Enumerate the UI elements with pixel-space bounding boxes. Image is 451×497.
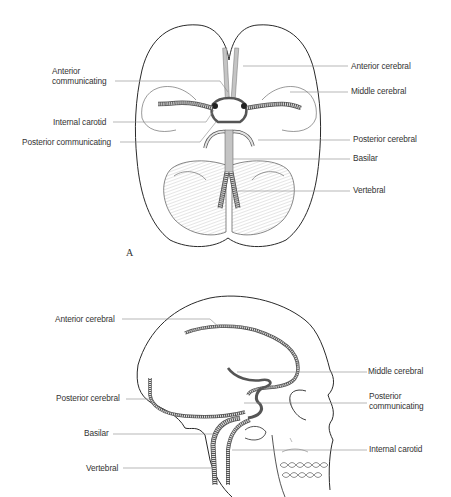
internal-carotid-artery <box>228 420 250 485</box>
basilar-artery <box>225 130 233 172</box>
label-b-posterior-cerebral: Posterior cerebral <box>56 394 120 404</box>
orbit <box>290 390 306 420</box>
label-b-vertebral: Vertebral <box>86 464 118 474</box>
label-a-middle-cerebral: Middle cerebral <box>351 87 406 97</box>
label-b-middle-cerebral: Middle cerebral <box>368 367 423 377</box>
label-b-anterior-cerebral: Anterior cerebral <box>55 315 115 325</box>
anterior-cerebral-artery-right <box>231 48 238 98</box>
panel-a-brain-inferior <box>113 25 350 247</box>
right-temporal-lobe <box>262 87 316 132</box>
label-line-2: communicating <box>369 402 424 412</box>
zygoma <box>245 426 266 440</box>
label-b-basilar: Basilar <box>84 429 109 439</box>
label-a-anterior-communicating: Anterior communicating <box>52 67 107 86</box>
label-b-posterior-communicating: Posterior communicating <box>369 392 424 411</box>
label-a-anterior-cerebral: Anterior cerebral <box>351 62 411 72</box>
label-a-posterior-cerebral: Posterior cerebral <box>353 135 417 145</box>
posterior-cerebral-artery <box>150 378 245 417</box>
circle-of-willis <box>212 98 247 122</box>
mandible <box>272 435 285 497</box>
label-a-basilar: Basilar <box>353 154 378 164</box>
label-a-posterior-communicating: Posterior communicating <box>22 138 111 148</box>
label-b-internal-carotid: Internal carotid <box>369 445 422 455</box>
label-line-2: communicating <box>52 77 107 87</box>
panel-b-skull-lateral <box>113 296 367 497</box>
anterior-cerebral-artery <box>185 326 298 395</box>
label-a-vertebral: Vertebral <box>353 186 385 196</box>
panel-label-a: A <box>126 247 133 258</box>
left-temporal-lobe <box>142 87 196 132</box>
label-a-internal-carotid: Internal carotid <box>53 118 106 128</box>
middle-cerebral-artery <box>228 368 270 388</box>
teeth <box>280 463 328 478</box>
